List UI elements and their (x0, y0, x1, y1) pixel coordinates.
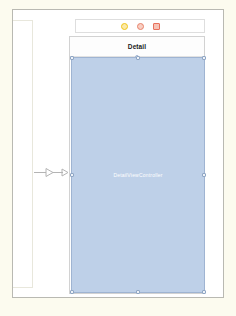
storyboard-editor: Detail DetailViewController (0, 0, 236, 316)
navigation-bar[interactable]: Detail (70, 37, 204, 57)
selected-view-label: DetailViewController (72, 172, 204, 178)
storyboard-canvas[interactable]: Detail DetailViewController (12, 9, 224, 298)
selected-root-view[interactable]: DetailViewController (71, 57, 205, 293)
scene-dock[interactable] (75, 19, 205, 33)
adjacent-scene-outline[interactable] (12, 20, 33, 288)
first-responder-icon[interactable] (137, 23, 144, 30)
selection-handle-bottom-left[interactable] (70, 290, 74, 294)
view-controller-body[interactable]: Detail DetailViewController (69, 36, 205, 294)
navigation-bar-title: Detail (128, 43, 146, 50)
segue-arrow-icon (34, 166, 69, 179)
selection-handle-top-right[interactable] (202, 56, 206, 60)
show-segue-arrow[interactable] (34, 165, 69, 178)
selection-handle-top-center[interactable] (136, 56, 140, 60)
exit-icon[interactable] (153, 23, 160, 30)
selection-handle-top-left[interactable] (70, 56, 74, 60)
selection-handle-middle-left[interactable] (70, 173, 74, 177)
detail-scene[interactable]: Detail DetailViewController (69, 19, 199, 294)
selection-handle-bottom-right[interactable] (202, 290, 206, 294)
view-controller-icon[interactable] (121, 23, 128, 30)
selection-handle-bottom-center[interactable] (136, 290, 140, 294)
selection-handle-middle-right[interactable] (202, 173, 206, 177)
